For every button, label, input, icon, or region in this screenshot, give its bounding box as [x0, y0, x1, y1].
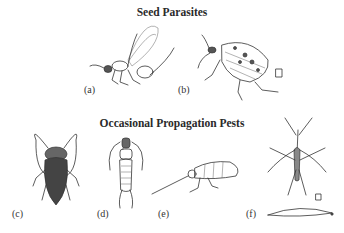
cranefly-illustration-f: [268, 118, 333, 216]
springtail-illustration-e: [152, 162, 238, 194]
figure-label-c: (c): [12, 208, 23, 219]
earwig-illustration-d: [109, 138, 143, 208]
figure-label-f: (f): [246, 208, 256, 219]
figure-label-d: (d): [97, 208, 109, 219]
wasp-illustration-a: [90, 26, 174, 85]
insect-illustrations: [0, 0, 344, 233]
cockroach-illustration-c: [33, 134, 79, 205]
figure-label-e: (e): [158, 208, 169, 219]
beetle-illustration-b: [198, 35, 282, 100]
figure-label-a: (a): [84, 84, 95, 95]
figure-label-b: (b): [178, 84, 190, 95]
